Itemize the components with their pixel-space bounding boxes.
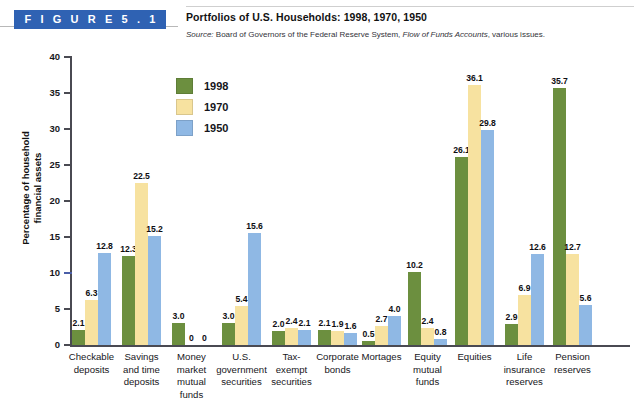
y-axis-label-20: 20 <box>36 195 60 206</box>
bar-1998-7[interactable] <box>408 272 421 345</box>
bar-value-label: 2.9 <box>506 312 518 322</box>
bar-value-label: 0 <box>202 333 207 343</box>
bar-slot: 0.5 <box>362 57 375 345</box>
bar-value-label: 3.0 <box>173 311 185 321</box>
header-rule-right <box>186 6 634 7</box>
category-label: Checkabledeposits <box>69 351 115 376</box>
figure-number-badge: F I G U R E 5 . 1 <box>14 10 166 29</box>
bar-value-label: 2.1 <box>319 318 331 328</box>
bar-group-bars: 0.52.74.0 <box>362 57 401 345</box>
bar-1950-6[interactable] <box>388 316 401 345</box>
bar-group-bars: 35.712.75.6 <box>553 57 592 345</box>
bar-group-bars: 2.02.42.1 <box>272 57 311 345</box>
bar-1998-2[interactable] <box>172 323 185 345</box>
category-label: Equities <box>451 351 499 364</box>
y-axis-label-35: 35 <box>36 87 60 98</box>
bar-1970-9[interactable] <box>518 295 531 345</box>
bar-1950-9[interactable] <box>531 254 544 345</box>
category-label-line: and time <box>123 364 160 375</box>
category-label-line: funds <box>416 376 439 387</box>
y-axis-label-40: 40 <box>36 51 60 62</box>
category-label-line: exempt <box>276 364 307 375</box>
bar-1950-10[interactable] <box>579 305 592 345</box>
bar-1970-10[interactable] <box>566 254 579 345</box>
bar-1998-3[interactable] <box>222 323 235 345</box>
bar-slot: 2.4 <box>285 57 298 345</box>
category-label: Equitymutualfunds <box>405 351 451 389</box>
bar-1970-1[interactable] <box>135 183 148 345</box>
bar-value-label: 2.1 <box>299 318 311 328</box>
bar-value-label: 1.6 <box>345 321 357 331</box>
bar-1970-3[interactable] <box>235 306 248 345</box>
bar-1998-0[interactable] <box>72 330 85 345</box>
bar-value-label: 12.8 <box>96 241 113 251</box>
bar-group-bars: 12.322.515.2 <box>122 57 161 345</box>
y-axis-tick-10 <box>64 272 72 274</box>
bar-group-bars: 2.96.912.6 <box>505 57 544 345</box>
x-axis-line <box>70 345 630 347</box>
bar-1998-10[interactable] <box>553 88 566 345</box>
category-label-line: Mortages <box>362 351 402 362</box>
category-label: Mortages <box>359 351 405 364</box>
bar-1950-7[interactable] <box>434 339 447 345</box>
bar-1970-4[interactable] <box>285 328 298 345</box>
bar-slot: 2.1 <box>72 57 85 345</box>
category-label: Corporatebonds <box>313 351 363 376</box>
category-label: U.S.governmentsecurities <box>216 351 268 389</box>
bar-value-label: 5.4 <box>236 294 248 304</box>
y-axis-label-10: 10 <box>36 267 60 278</box>
bar-1970-6[interactable] <box>375 326 388 345</box>
y-axis-tick-35 <box>64 92 72 94</box>
bar-1970-5[interactable] <box>331 331 344 345</box>
bar-value-label: 5.6 <box>580 293 592 303</box>
bar-1998-4[interactable] <box>272 331 285 345</box>
y-axis-title: Percentage of household financial assets <box>20 93 44 283</box>
bar-slot: 6.3 <box>85 57 98 345</box>
category-label-line: market <box>177 364 206 375</box>
bar-slot: 26.1 <box>455 57 468 345</box>
bar-value-label: 1.9 <box>332 319 344 329</box>
bar-1950-0[interactable] <box>98 253 111 345</box>
bar-1970-7[interactable] <box>421 328 434 345</box>
category-label-line: U.S. <box>232 351 251 362</box>
category-label-line: reserves <box>506 376 543 387</box>
bar-value-label: 2.4 <box>286 316 298 326</box>
bar-value-label: 12.6 <box>529 242 546 252</box>
bar-1970-0[interactable] <box>85 300 98 345</box>
category-label-line: securities <box>221 376 262 387</box>
bar-slot: 2.7 <box>375 57 388 345</box>
bar-slot: 35.7 <box>553 57 566 345</box>
bar-slot: 0.8 <box>434 57 447 345</box>
bar-value-label: 2.4 <box>422 316 434 326</box>
bar-1998-9[interactable] <box>505 324 518 345</box>
bar-group-bars: 3.05.415.6 <box>222 57 261 345</box>
bar-1998-1[interactable] <box>122 256 135 345</box>
bar-1950-1[interactable] <box>148 236 161 345</box>
bar-1998-8[interactable] <box>455 157 468 345</box>
bar-slot: 10.2 <box>408 57 421 345</box>
bar-1950-4[interactable] <box>298 330 311 345</box>
bar-slot: 29.8 <box>481 57 494 345</box>
bar-group-bars: 10.22.40.8 <box>408 57 447 345</box>
bar-slot: 12.3 <box>122 57 135 345</box>
bar-slot: 2.4 <box>421 57 434 345</box>
bar-1950-5[interactable] <box>344 333 357 345</box>
y-axis-label-5: 5 <box>36 303 60 314</box>
category-label-line: Corporate <box>316 351 359 362</box>
bar-value-label: 0.8 <box>435 327 447 337</box>
figure-source: Source: Board of Governors of the Federa… <box>186 30 545 39</box>
bar-1998-6[interactable] <box>362 341 375 345</box>
category-label-line: securities <box>271 376 312 387</box>
source-publication: Flow of Funds Accounts <box>403 30 488 39</box>
category-label-line: Checkable <box>69 351 114 362</box>
bar-slot: 5.6 <box>579 57 592 345</box>
bar-1950-3[interactable] <box>248 233 261 345</box>
category-label: Moneymarketmutualfunds <box>169 351 215 401</box>
bar-slot: 1.9 <box>331 57 344 345</box>
y-axis-label-15: 15 <box>36 231 60 242</box>
bar-value-label: 0.5 <box>363 329 375 339</box>
bar-1998-5[interactable] <box>318 330 331 345</box>
bar-chart: Percentage of household financial assets… <box>0 48 639 414</box>
bar-1950-8[interactable] <box>481 130 494 345</box>
bar-value-label: 0 <box>189 333 194 343</box>
